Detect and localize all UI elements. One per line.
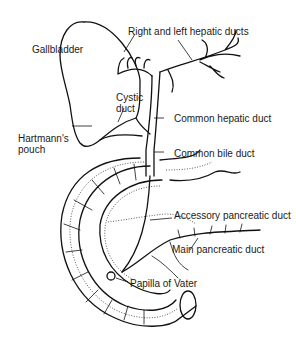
label-common-hepatic-duct: Common hepatic duct	[174, 113, 271, 124]
label-accessory-pancreatic-duct: Accessory pancreatic duct	[174, 210, 291, 221]
label-hepatic-ducts: Right and left hepatic ducts	[128, 26, 249, 37]
label-hartmann-pouch-2: pouch	[18, 144, 45, 155]
common-hepatic-duct-shape	[146, 76, 152, 176]
label-cystic-duct-2: duct	[116, 103, 135, 114]
hepatic-ducts-shape	[118, 30, 240, 92]
label-main-pancreatic-duct: Main pancreatic duct	[172, 244, 264, 255]
papilla-of-vater-marker	[107, 272, 115, 280]
label-cystic-duct-1: Cystic	[116, 92, 143, 103]
label-common-bile-duct: Common bile duct	[174, 148, 255, 159]
gallbladder-shape	[60, 22, 140, 147]
label-gallbladder: Gallbladder	[32, 44, 83, 55]
label-hartmann-pouch-1: Hartmann's	[18, 133, 69, 144]
label-papilla-of-vater: Papilla of Vater	[130, 278, 197, 289]
